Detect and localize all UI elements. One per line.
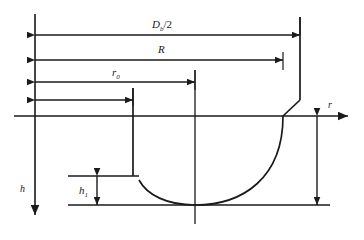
r0-subscript: 0 (116, 73, 120, 81)
dimension-label-h1: h1 (79, 184, 88, 199)
dimension-label-r0: r0 (112, 66, 120, 81)
dished-head-outer-curve (195, 116, 283, 205)
vessel-head-diagram: h r Db/2 R r0 (0, 0, 364, 240)
db-symbol: D (151, 18, 160, 30)
db-fraction: /2 (163, 18, 172, 30)
r-axis-label: r (328, 99, 332, 110)
dimension-label-R: R (157, 43, 165, 55)
figure-canvas: h r Db/2 R r0 (0, 0, 364, 240)
h-axis-label: h (20, 183, 25, 194)
dished-head-knuckle-curve (139, 180, 195, 205)
h1-subscript: 1 (85, 191, 89, 199)
dimension-label-db-half: Db/2 (151, 18, 172, 33)
shell-knuckle-chamfer (283, 100, 300, 116)
